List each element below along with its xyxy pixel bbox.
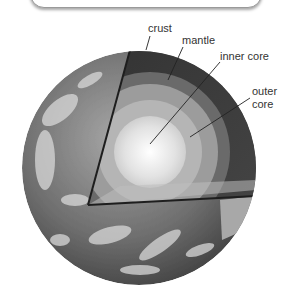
crust-leader bbox=[146, 36, 150, 50]
label-crust: crust bbox=[148, 23, 172, 34]
inner-core-layer bbox=[114, 116, 186, 188]
globe bbox=[0, 0, 289, 297]
earth-cutaway-diagram bbox=[0, 0, 289, 297]
label-mantle: mantle bbox=[182, 35, 215, 46]
label-outer-core-line2: core bbox=[252, 99, 273, 110]
label-inner-core: inner core bbox=[220, 51, 269, 62]
label-outer-core-line1: outer bbox=[252, 86, 277, 97]
